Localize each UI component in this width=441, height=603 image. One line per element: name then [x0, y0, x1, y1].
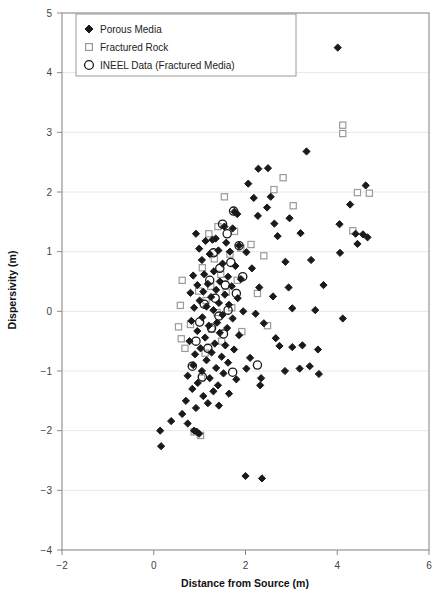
plot-border	[62, 13, 429, 550]
data-point	[230, 346, 237, 353]
data-point	[179, 410, 186, 417]
data-point	[233, 376, 240, 383]
data-point	[354, 189, 360, 195]
data-point	[267, 193, 274, 200]
data-point	[285, 284, 292, 291]
data-point	[200, 392, 207, 399]
data-point	[191, 304, 198, 311]
data-point	[192, 404, 199, 411]
data-point	[177, 302, 183, 308]
data-point	[261, 253, 267, 259]
data-point	[339, 315, 346, 322]
data-point	[196, 318, 204, 326]
data-point	[246, 354, 253, 361]
data-point	[203, 357, 210, 364]
data-point	[199, 265, 205, 271]
data-point	[225, 390, 232, 397]
data-point	[227, 258, 235, 266]
data-point	[366, 190, 372, 196]
y-tick-label: 2	[46, 187, 52, 198]
data-point	[320, 281, 327, 288]
data-point	[271, 220, 278, 227]
x-tick-label: −2	[56, 560, 68, 571]
y-tick-label: −1	[41, 366, 53, 377]
data-point	[303, 148, 310, 155]
data-point	[274, 233, 281, 240]
data-point	[215, 402, 222, 409]
data-point	[354, 240, 361, 247]
data-point	[289, 344, 296, 351]
data-point	[308, 256, 315, 263]
y-tick-label: −4	[41, 545, 53, 556]
data-point	[210, 388, 217, 395]
data-point	[346, 201, 353, 208]
data-point	[314, 346, 321, 353]
data-point	[221, 281, 229, 289]
data-point	[187, 289, 194, 296]
data-point	[264, 165, 271, 172]
data-point	[206, 231, 212, 237]
chart-legend: Porous MediaFractured RockINEEL Data (Fr…	[76, 14, 296, 76]
data-point	[336, 221, 343, 228]
data-point	[204, 400, 211, 407]
y-tick-label: 3	[46, 127, 52, 138]
scatter-plot-figure: −20246 −4−3−2−1012345 Porous MediaFractu…	[0, 0, 441, 603]
data-point	[198, 256, 205, 263]
data-point	[178, 336, 184, 342]
data-point	[157, 443, 164, 450]
data-point	[297, 230, 304, 237]
data-point	[258, 475, 265, 482]
y-tick-label: 4	[46, 67, 52, 78]
data-point	[257, 382, 264, 389]
data-point	[211, 340, 218, 347]
data-point	[250, 194, 257, 201]
series-porous-media	[157, 44, 372, 482]
gridlines	[62, 73, 429, 491]
data-point	[191, 351, 198, 358]
data-point	[263, 204, 270, 211]
data-point	[299, 342, 306, 349]
data-point	[202, 334, 209, 341]
data-point	[206, 375, 213, 382]
data-point	[336, 249, 343, 256]
data-point	[194, 327, 201, 334]
data-point	[240, 308, 247, 315]
data-points-layer	[157, 44, 373, 482]
x-tick-label: 4	[334, 560, 340, 571]
data-point	[254, 212, 261, 219]
data-point	[253, 361, 261, 369]
legend-item-label: Fractured Rock	[100, 42, 169, 53]
data-point	[242, 472, 249, 479]
data-point	[255, 165, 262, 172]
x-tick-label: 6	[426, 560, 432, 571]
data-point	[224, 359, 231, 366]
data-point	[245, 180, 252, 187]
legend-item-label: INEEL Data (Fractured Media)	[100, 60, 235, 71]
data-point	[184, 420, 191, 427]
data-point	[248, 241, 254, 247]
data-point	[214, 382, 221, 389]
data-point	[229, 315, 236, 322]
data-point	[306, 363, 313, 370]
data-point	[157, 427, 164, 434]
data-point	[168, 418, 175, 425]
data-point	[202, 237, 209, 244]
y-tick-label: −2	[41, 425, 53, 436]
x-axis-title: Distance from Source (m)	[181, 577, 309, 589]
data-point	[182, 397, 189, 404]
data-point	[257, 375, 264, 382]
data-point	[184, 372, 191, 379]
data-point	[276, 342, 283, 349]
x-axis-ticks: −20246	[56, 550, 432, 571]
data-point	[218, 353, 225, 360]
y-tick-label: 0	[46, 306, 52, 317]
legend-marker-square-icon	[86, 44, 93, 51]
data-point	[224, 273, 231, 280]
data-point	[248, 265, 255, 272]
data-point	[280, 175, 286, 181]
data-point	[271, 187, 277, 193]
data-point	[272, 335, 279, 342]
data-point	[340, 122, 346, 128]
data-point	[269, 293, 276, 300]
data-point	[175, 324, 181, 330]
